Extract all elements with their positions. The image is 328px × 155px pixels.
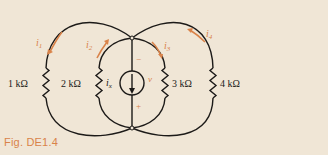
label-plus: + <box>136 101 141 111</box>
figure-caption: Fig. DE1.4 <box>4 136 58 148</box>
label-r4: 4 kΩ <box>220 78 240 89</box>
label-i4: i4 <box>206 28 213 41</box>
label-ix: ix <box>106 77 113 90</box>
node-bottom <box>130 126 134 130</box>
label-minus: − <box>136 54 141 64</box>
resistor-3-zigzag <box>162 68 168 98</box>
resistor-2-zigzag <box>96 68 102 98</box>
resistor-1-zigzag <box>43 68 49 98</box>
label-r2: 2 kΩ <box>61 78 81 89</box>
circuit-diagram: i1 i2 i3 i4 1 kΩ 2 kΩ 3 kΩ 4 kΩ ix v + − <box>0 0 328 155</box>
label-i2: i2 <box>86 39 93 52</box>
label-v: v <box>148 74 152 84</box>
label-i1: i1 <box>36 37 42 50</box>
label-r3: 3 kΩ <box>172 78 192 89</box>
wire-loop-1 <box>46 23 132 136</box>
arrow-i1 <box>50 32 62 52</box>
label-r1: 1 kΩ <box>8 78 28 89</box>
resistor-4-zigzag <box>210 68 216 98</box>
current-source-arrowhead <box>129 88 135 94</box>
node-top <box>130 36 134 40</box>
label-i3: i3 <box>164 40 171 53</box>
wire-loop-2 <box>99 38 132 128</box>
